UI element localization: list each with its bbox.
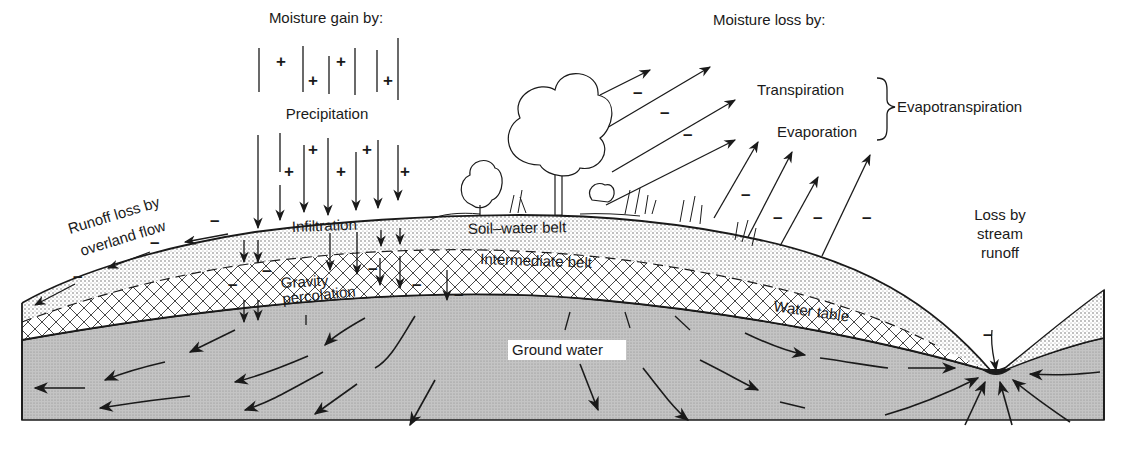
svg-text:+: + (336, 162, 346, 181)
svg-text:–: – (660, 103, 669, 122)
svg-text:+: + (308, 140, 318, 159)
svg-text:+: + (336, 52, 346, 71)
evaporation-label: Evaporation (777, 123, 857, 140)
svg-text:+: + (400, 162, 410, 181)
stream-runoff-label-line1: Loss by (974, 206, 1026, 223)
hydrologic-cycle-diagram: Moisture gain by: Precipitation Moisture… (0, 0, 1124, 454)
infiltration-label: Infiltration (292, 216, 358, 235)
svg-text:+: + (284, 162, 294, 181)
svg-text:–: – (813, 208, 822, 227)
svg-text:–: – (741, 185, 750, 204)
svg-text:–: – (862, 208, 871, 227)
svg-text:–: – (262, 261, 271, 280)
svg-text:+: + (383, 71, 393, 90)
moisture-gain-label: Moisture gain by: (269, 9, 383, 26)
stream-runoff-label-line2: stream (977, 225, 1023, 242)
moisture-loss-label: Moisture loss by: (713, 11, 826, 28)
evapotranspiration-brace (877, 78, 895, 140)
ground-water-label: Ground water (512, 341, 603, 358)
svg-text:–: – (228, 275, 237, 294)
tree-illustration (461, 74, 614, 215)
svg-text:–: – (773, 208, 782, 227)
svg-text:+: + (362, 140, 372, 159)
svg-text:–: – (210, 211, 219, 230)
evapotranspiration-label: Evapotranspiration (897, 98, 1022, 115)
soil-water-belt-label: Soil–water belt (468, 218, 568, 237)
svg-text:–: – (983, 325, 992, 344)
svg-text:–: – (73, 267, 82, 286)
svg-text:–: – (150, 233, 159, 252)
svg-text:–: – (368, 259, 377, 278)
svg-text:–: – (412, 275, 421, 294)
precipitation-arrows (258, 133, 398, 228)
svg-text:–: – (633, 83, 642, 102)
precipitation-label: Precipitation (286, 105, 369, 122)
svg-text:+: + (276, 52, 286, 71)
svg-text:+: + (308, 71, 318, 90)
stream-runoff-label-line3: runoff (981, 244, 1020, 261)
svg-text:–: – (683, 125, 692, 144)
svg-text:–: – (454, 285, 463, 304)
transpiration-label: Transpiration (757, 81, 844, 98)
